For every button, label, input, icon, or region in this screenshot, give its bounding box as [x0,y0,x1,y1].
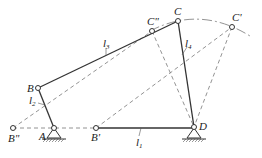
joint-b [36,86,41,91]
label-b: B [27,82,34,94]
label-d: D [198,120,207,132]
line-bprime-cprime [96,27,232,128]
label-c-prime: C' [232,11,242,23]
label-a: A [38,130,46,142]
joint-d [192,125,197,130]
joint-c [176,19,181,24]
label-c: C [174,5,182,17]
joint-b-prime [94,126,99,131]
label-l4: l4 [185,37,192,51]
link-l2-crank [38,88,54,128]
joint-a [52,126,57,131]
joint-c-prime [230,25,235,30]
label-b-prime: B' [91,131,101,143]
joint-c-dprime [150,29,155,34]
link-l3-coupler [38,21,178,88]
linkage-diagram: A B C D B' B" C' C" l3 l4 l2 l1 [0,0,262,158]
line-cprime-d [194,27,232,127]
label-l3: l3 [103,37,110,51]
label-l2: l2 [29,94,36,108]
label-l1: l1 [136,136,143,150]
line-bdprime-cdprime [13,31,152,128]
joint-b-dprime [11,126,16,131]
label-b-dprime: B" [8,132,20,144]
label-c-dprime: C" [147,15,159,27]
